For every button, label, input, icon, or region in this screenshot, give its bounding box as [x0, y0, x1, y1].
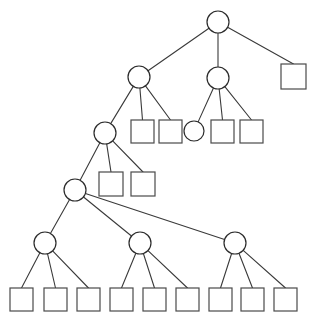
- tree-edge: [84, 197, 132, 236]
- tree-edge: [111, 86, 134, 123]
- tree-node-circle[interactable]: [207, 67, 229, 89]
- tree-node-square[interactable]: [209, 288, 232, 311]
- tree-edge: [239, 253, 253, 288]
- tree-edge: [148, 28, 209, 70]
- tree-edge: [140, 88, 143, 120]
- tree-edge: [221, 253, 232, 288]
- tree-diagram-canvas: [0, 0, 310, 319]
- tree-node-square[interactable]: [159, 120, 182, 143]
- tree-edge: [143, 253, 154, 288]
- tree-node-square[interactable]: [131, 120, 154, 143]
- tree-node-square[interactable]: [10, 288, 33, 311]
- tree-node-square[interactable]: [77, 288, 100, 311]
- tree-node-square[interactable]: [241, 288, 264, 311]
- tree-node-square[interactable]: [99, 172, 123, 196]
- tree-edge: [85, 193, 224, 239]
- tree-node-square[interactable]: [281, 64, 306, 89]
- tree-node-square[interactable]: [110, 288, 133, 311]
- tree-node-square[interactable]: [176, 288, 199, 311]
- tree-node-circle[interactable]: [129, 232, 151, 254]
- tree-edge: [243, 250, 285, 288]
- tree-node-square[interactable]: [131, 172, 155, 196]
- tree-node-circle[interactable]: [64, 179, 86, 201]
- tree-edge: [113, 141, 143, 172]
- tree-node-circle[interactable]: [207, 11, 229, 33]
- tree-edge: [148, 251, 188, 288]
- tree-edge: [225, 87, 252, 120]
- tree-node-square[interactable]: [211, 120, 234, 143]
- tree-edge: [80, 143, 100, 181]
- tree-node-circle[interactable]: [184, 121, 204, 141]
- tree-edge: [47, 254, 55, 288]
- tree-edge: [50, 200, 69, 234]
- tree-edge: [22, 253, 40, 288]
- tree-edge: [107, 144, 111, 172]
- tree-node-square[interactable]: [143, 288, 166, 311]
- tree-node-square[interactable]: [44, 288, 67, 311]
- tree-edge: [53, 251, 89, 288]
- tree-edge: [122, 253, 136, 288]
- tree-node-circle[interactable]: [128, 66, 150, 88]
- tree-edge: [228, 27, 294, 64]
- tree-node-square[interactable]: [274, 288, 297, 311]
- tree-diagram-svg: [0, 0, 310, 319]
- tree-edge: [219, 89, 222, 120]
- tree-edge: [146, 86, 171, 120]
- edge-layer: [22, 27, 294, 288]
- tree-node-square[interactable]: [240, 120, 263, 143]
- tree-node-circle[interactable]: [94, 122, 116, 144]
- tree-edge: [198, 88, 213, 122]
- tree-node-circle[interactable]: [34, 232, 56, 254]
- tree-node-circle[interactable]: [224, 232, 246, 254]
